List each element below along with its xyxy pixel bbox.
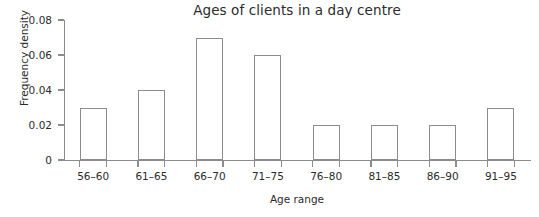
x-axis-tick-label: 56–60	[77, 170, 109, 182]
x-axis-tick	[339, 161, 340, 167]
histogram-chart: Ages of clients in a day centre Frequenc…	[0, 0, 539, 217]
x-axis-tick-label: 86–90	[427, 170, 459, 182]
y-axis-tick-label: 0	[6, 154, 52, 166]
histogram-bar	[196, 38, 223, 161]
x-axis-tick-label: 81–85	[368, 170, 400, 182]
x-axis-tick	[487, 161, 488, 167]
x-axis-tick	[254, 161, 255, 167]
x-axis-tick	[196, 161, 197, 167]
histogram-bar	[138, 90, 165, 160]
y-axis-tick-label: 0.04	[6, 84, 52, 96]
chart-title: Ages of clients in a day centre	[64, 2, 530, 18]
x-axis-tick	[281, 161, 282, 167]
x-axis-tick	[164, 161, 165, 167]
y-axis-tick-label: 0.02	[6, 119, 52, 131]
histogram-bar	[429, 125, 456, 160]
x-axis-tick-label: 91–95	[485, 170, 517, 182]
x-axis-tick	[397, 161, 398, 167]
x-axis-tick	[514, 161, 515, 167]
histogram-bar	[371, 125, 398, 160]
x-axis-tick-label: 66–70	[194, 170, 226, 182]
x-axis-tick	[370, 161, 371, 167]
y-axis-tick-label: 0.08	[6, 14, 52, 26]
x-axis-tick	[429, 161, 430, 167]
histogram-bar	[313, 125, 340, 160]
x-axis-title: Age range	[64, 193, 530, 205]
plot-area	[64, 20, 530, 160]
x-axis-tick	[222, 161, 223, 167]
x-axis-tick	[137, 161, 138, 167]
x-axis-tick-label: 71–75	[252, 170, 284, 182]
histogram-bar	[487, 108, 514, 161]
x-axis-tick	[79, 161, 80, 167]
histogram-bar	[80, 108, 107, 161]
x-axis-tick	[106, 161, 107, 167]
x-axis-tick	[455, 161, 456, 167]
y-axis-tick-label: 0.06	[6, 49, 52, 61]
x-axis-tick-label: 76–80	[310, 170, 342, 182]
histogram-bar	[254, 55, 281, 160]
x-axis-tick-label: 61–65	[135, 170, 167, 182]
x-axis-tick	[312, 161, 313, 167]
x-axis-line	[64, 160, 531, 161]
